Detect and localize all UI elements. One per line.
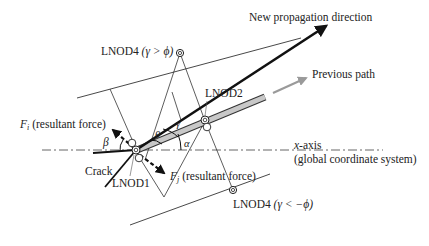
lnod4-top-label: LNOD4 (γ > ϕ) — [101, 45, 173, 58]
angle-alpha-arc — [178, 134, 181, 150]
lnod1-leader — [130, 155, 134, 176]
lnod4-top-condition: (γ > ϕ) — [142, 45, 174, 57]
lnod1-label: LNOD1 — [112, 177, 150, 190]
fj-text: (resultant force) — [182, 170, 256, 182]
lnod2-label: LNOD2 — [205, 87, 243, 100]
node-lnod4-top — [176, 49, 183, 56]
angle-gamma-label: γ — [176, 117, 180, 130]
lnod4-top-name: LNOD4 — [101, 45, 139, 57]
angle-alpha-label: α — [184, 137, 190, 150]
previous-path-arrow — [273, 78, 306, 93]
angle-beta-arc — [120, 140, 123, 151]
new-propagation-label: New propagation direction — [249, 11, 372, 24]
fi-subscript: i — [27, 123, 29, 132]
fi-symbol: F — [20, 118, 27, 130]
fj-symbol: F — [170, 170, 177, 182]
global-coordinate-label: (global coordinate system) — [294, 153, 417, 166]
fj-subscript: j — [177, 175, 179, 184]
previous-path-bar — [137, 97, 265, 150]
x-axis-label: x-axis — [294, 139, 321, 152]
lnod4-bottom-name: LNOD4 — [233, 198, 271, 210]
angle-beta-label: β — [103, 136, 109, 149]
fj-label: Fj (resultant force) — [170, 170, 256, 186]
previous-path-label: Previous path — [312, 68, 375, 81]
lnod4-bottom-condition: (γ < −ϕ) — [274, 198, 313, 210]
angle-theta-label: θ — [155, 128, 160, 141]
node-lnod4-bottom — [229, 186, 236, 193]
crack-label: Crack — [85, 165, 112, 178]
fi-text: (resultant force) — [32, 118, 106, 130]
fi-label: Fi (resultant force) — [20, 118, 106, 134]
lnod4-bottom-label: LNOD4 (γ < −ϕ) — [233, 198, 313, 211]
x-axis-suffix: -axis — [299, 139, 321, 151]
